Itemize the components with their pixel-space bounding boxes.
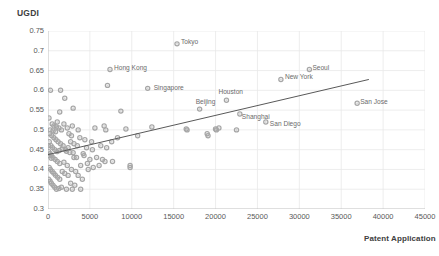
- y-tick-label: 0.5: [16, 126, 44, 134]
- x-tick-label: 35000: [321, 213, 361, 221]
- x-tick-label: 30000: [279, 213, 319, 221]
- x-tick-label: 0: [28, 213, 68, 221]
- x-tick-label: 10000: [112, 213, 152, 221]
- point-label-houston: Houston: [218, 89, 243, 96]
- y-tick-label: 0.6: [16, 86, 44, 94]
- x-tick-label: 15000: [154, 213, 194, 221]
- y-axis-tick-labels: 0.30.350.40.450.50.550.60.650.70.75: [0, 0, 44, 209]
- y-tick-label: 0.4: [16, 165, 44, 173]
- x-tick-label: 25000: [237, 213, 277, 221]
- x-axis-tick-labels: 0500010000150002000025000300003500040000…: [0, 211, 439, 225]
- x-axis-title: Patent Application: [364, 234, 436, 243]
- point-label-singapore: Singapore: [154, 85, 184, 92]
- point-label-san-diego: San Diego: [270, 121, 301, 128]
- y-tick-label: 0.7: [16, 47, 44, 55]
- point-label-beijing: Beijing: [196, 99, 216, 106]
- y-tick-label: 0.45: [16, 146, 44, 154]
- point-label-hong-kong: Hong Kong: [114, 65, 147, 72]
- x-tick-label: 5000: [70, 213, 110, 221]
- x-tick-label: 45000: [405, 213, 439, 221]
- y-tick-label: 0.35: [16, 185, 44, 193]
- y-tick-label: 0.55: [16, 106, 44, 114]
- plot-area: [48, 31, 425, 209]
- point-label-new-york: New York: [285, 74, 313, 81]
- plot-svg: [48, 31, 425, 209]
- point-label-shanghai: Shanghai: [242, 114, 270, 121]
- point-label-san-jose: San Jose: [360, 99, 388, 106]
- scatter-chart: UGDI 0.30.350.40.450.50.550.60.650.70.75…: [0, 0, 439, 256]
- x-tick-label: 40000: [363, 213, 403, 221]
- point-label-seoul: Seoul: [312, 65, 329, 72]
- point-label-tokyo: Tokyo: [181, 39, 198, 46]
- axis-lines: [48, 31, 425, 209]
- y-tick-label: 0.75: [16, 27, 44, 35]
- gridlines: [48, 31, 425, 209]
- x-tick-label: 20000: [196, 213, 236, 221]
- y-tick-label: 0.65: [16, 67, 44, 75]
